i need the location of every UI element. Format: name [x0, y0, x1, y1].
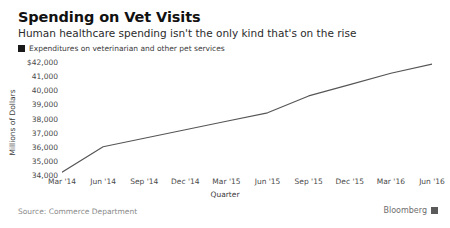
chart-figure: Spending on Vet Visits Human healthcare …	[0, 0, 450, 228]
series-line-path	[62, 64, 432, 172]
brand-logo: Bloomberg	[383, 206, 438, 215]
x-axis-tick-label: Sep '14	[130, 177, 158, 186]
x-axis-tick-label: Mar '14	[48, 177, 76, 186]
legend-swatch-icon	[18, 45, 25, 52]
y-axis-tick-label: $42,000	[2, 58, 58, 67]
plot-area	[62, 62, 432, 175]
y-axis-label: Millions of Dollars	[8, 73, 17, 173]
legend-item-label: Expenditures on veterinarian and other p…	[29, 44, 225, 53]
x-axis-tick-label: Mar '15	[212, 177, 240, 186]
bloomberg-square-icon	[431, 207, 438, 214]
x-axis-tick-label: Mar '16	[377, 177, 405, 186]
x-axis-label: Quarter	[0, 190, 450, 199]
chart-legend: Expenditures on veterinarian and other p…	[18, 44, 225, 53]
chart-subtitle: Human healthcare spending isn't the only…	[18, 27, 356, 39]
x-axis-tick-label: Dec '14	[171, 177, 200, 186]
chart-title: Spending on Vet Visits	[18, 9, 201, 25]
brand-text: Bloomberg	[383, 206, 427, 215]
x-axis-tick-label: Sep '15	[295, 177, 323, 186]
source-note: Source: Commerce Department	[18, 207, 137, 216]
x-axis-tick-label: Jun '15	[255, 177, 281, 186]
x-axis-tick-label: Jun '14	[90, 177, 116, 186]
x-axis-tick-label: Dec '15	[336, 177, 365, 186]
line-series-svg	[62, 62, 432, 175]
x-axis-tick-label: Jun '16	[419, 177, 445, 186]
